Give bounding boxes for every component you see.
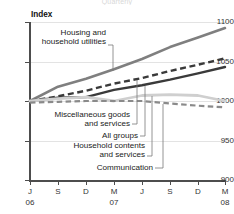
- annotation-communication: Communication: [68, 163, 153, 172]
- leader-line-household-contents: [147, 96, 152, 156]
- series-line-communication: [30, 101, 225, 107]
- leader-line-communication: [155, 104, 163, 168]
- annotation-miscellaneous-goods-and-services: Miscellaneous goods and services: [44, 110, 130, 129]
- annotation-all-groups: All groups: [68, 131, 138, 140]
- leader-line-all-groups: [140, 86, 145, 136]
- annotation-housing-and-household-utilities: Housing and household utilities: [32, 28, 106, 47]
- chart-figure: Quarterly Index 1100 1050 1000 950 900 J…: [0, 0, 234, 214]
- leader-line-housing: [108, 45, 113, 71]
- annotation-household-contents-and-services: Household contents and services: [58, 141, 145, 160]
